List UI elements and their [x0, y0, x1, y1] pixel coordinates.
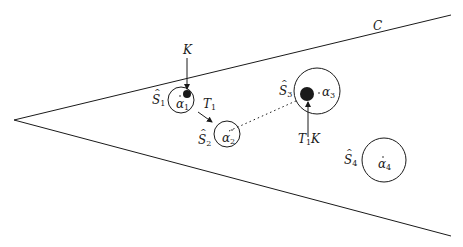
alpha2-point	[231, 129, 233, 131]
set-t1k	[300, 87, 314, 101]
alpha1-label: α1	[176, 98, 189, 112]
cone-upper-edge	[14, 15, 451, 120]
ball-s4-label: S4	[344, 154, 357, 168]
ball-s3-label: S3	[279, 85, 292, 99]
diagram-canvas: C K S1 α1 T1 S2 α2 S3 α3 T1K S4 α4	[0, 0, 463, 247]
alpha4-label: α4	[378, 158, 391, 172]
dotted-connection	[229, 100, 298, 131]
map-t1-label: T1	[203, 98, 216, 112]
ball-s1-label: S1	[152, 94, 165, 108]
set-t1k-label: T1K	[298, 133, 320, 147]
alpha2-label: α2	[222, 132, 235, 146]
ball-s2-label: S2	[198, 134, 211, 148]
diagram-svg	[0, 0, 463, 247]
set-k	[183, 90, 191, 98]
cone-label: C	[373, 20, 382, 32]
alpha3-point	[318, 92, 320, 94]
set-k-label: K	[183, 44, 192, 56]
alpha3-label: α3	[322, 86, 335, 100]
t1-arrow	[198, 112, 212, 122]
